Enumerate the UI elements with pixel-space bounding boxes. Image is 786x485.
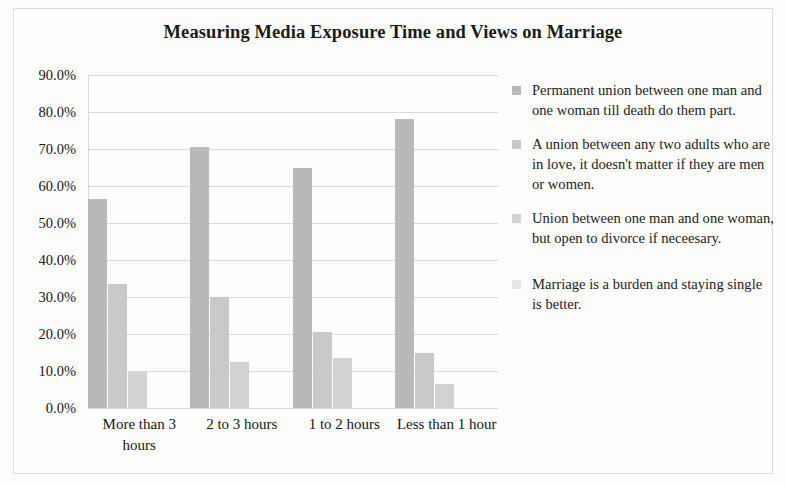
legend-item[interactable]: A union between any two adults who are i… (512, 134, 774, 194)
bar[interactable] (190, 147, 209, 408)
legend-item[interactable]: Permanent union between one man and one … (512, 80, 774, 120)
x-axis-tick-label: 2 to 3 hours (191, 414, 294, 435)
bar-group (293, 75, 396, 408)
legend-item[interactable]: Union between one man and one woman, but… (512, 208, 774, 248)
y-axis-tick-label: 10.0% (39, 363, 76, 380)
legend-swatch-icon (512, 280, 521, 289)
legend-item[interactable]: Marriage is a burden and staying single … (512, 274, 774, 314)
chart-title: Measuring Media Exposure Time and Views … (0, 22, 786, 43)
y-axis-tick-label: 0.0% (46, 400, 76, 417)
bar-group (191, 75, 294, 408)
x-axis-labels: More than 3 hours2 to 3 hours1 to 2 hour… (88, 414, 498, 474)
bar[interactable] (128, 371, 147, 408)
bar[interactable] (230, 362, 249, 408)
legend-swatch-icon (512, 140, 521, 149)
legend-label: Marriage is a burden and staying single … (532, 274, 774, 314)
bar[interactable] (88, 199, 107, 408)
x-axis-tick-label: Less than 1 hour (396, 414, 499, 435)
bar[interactable] (415, 353, 434, 409)
bar[interactable] (333, 358, 352, 408)
legend-label: A union between any two adults who are i… (532, 134, 774, 194)
chart-page: Measuring Media Exposure Time and Views … (0, 0, 786, 485)
y-axis-tick-label: 30.0% (39, 289, 76, 306)
y-axis-tick-label: 70.0% (39, 141, 76, 158)
bar-group (396, 75, 499, 408)
x-axis-tick-label: More than 3 hours (88, 414, 191, 456)
y-axis-tick-label: 90.0% (39, 67, 76, 84)
bar[interactable] (435, 384, 454, 408)
legend-swatch-icon (512, 86, 521, 95)
gridline (88, 408, 498, 409)
y-axis-tick-label: 60.0% (39, 178, 76, 195)
y-axis-labels: 90.0%80.0%70.0%60.0%50.0%40.0%30.0%20.0%… (0, 75, 82, 408)
y-axis-tick-label: 50.0% (39, 215, 76, 232)
x-axis-tick-label: 1 to 2 hours (293, 414, 396, 435)
bar-group (88, 75, 191, 408)
bar[interactable] (210, 297, 229, 408)
y-axis-tick-label: 40.0% (39, 252, 76, 269)
chart-legend: Permanent union between one man and one … (512, 80, 774, 314)
bar[interactable] (313, 332, 332, 408)
bar[interactable] (108, 284, 127, 408)
legend-swatch-icon (512, 214, 521, 223)
y-axis-tick-label: 80.0% (39, 104, 76, 121)
legend-label: Union between one man and one woman, but… (532, 208, 774, 248)
bar[interactable] (395, 119, 414, 408)
bar[interactable] (293, 168, 312, 409)
plot-area (88, 75, 498, 408)
y-axis-tick-label: 20.0% (39, 326, 76, 343)
legend-label: Permanent union between one man and one … (532, 80, 774, 120)
